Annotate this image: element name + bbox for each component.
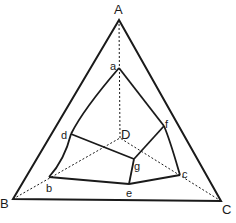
label-d: d	[61, 129, 67, 141]
label-f: f	[165, 118, 169, 130]
inner-surface	[49, 68, 180, 184]
edge-b-e	[49, 177, 129, 184]
edge-f-a	[119, 68, 164, 126]
label-b: b	[46, 182, 52, 194]
edge-e-c	[129, 175, 180, 184]
label-B: B	[0, 196, 9, 211]
label-g: g	[134, 160, 140, 172]
label-e: e	[126, 187, 132, 199]
edge-A-D	[119, 20, 120, 138]
label-C: C	[222, 202, 231, 217]
label-A: A	[114, 2, 123, 17]
label-c: c	[182, 168, 188, 180]
edge-g-f	[134, 126, 164, 159]
outer-triangle-abc	[13, 20, 221, 201]
tetrahedron-diagram: A B C D a b c d e f g	[0, 0, 236, 223]
edge-d-b	[49, 134, 71, 177]
dashed-hidden-edges	[13, 20, 221, 201]
edge-a-d	[71, 68, 119, 134]
edge-c-f	[164, 126, 180, 175]
label-D: D	[121, 127, 130, 142]
label-a: a	[110, 60, 117, 72]
